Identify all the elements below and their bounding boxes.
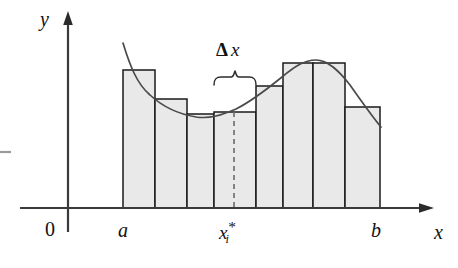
table-row [123, 70, 155, 208]
table-row [345, 107, 380, 208]
table-row [283, 63, 313, 208]
table-row [214, 112, 256, 208]
table-row [187, 114, 214, 208]
y-axis-arrow-icon [63, 11, 73, 25]
table-row [155, 99, 187, 208]
riemann-sum-figure: y x 0 a b Δx xi* [0, 0, 458, 268]
delta-x-variable: x [231, 39, 239, 60]
riemann-bars [123, 63, 380, 208]
y-axis-label: y [40, 9, 49, 29]
sample-point-superscript: * [228, 218, 236, 235]
delta-symbol: Δ [216, 39, 228, 60]
delta-x-brace [214, 71, 256, 85]
table-row [313, 63, 345, 208]
table-row [256, 86, 283, 208]
delta-x-label: Δx [216, 40, 239, 59]
upper-limit-label: b [371, 220, 381, 240]
origin-label: 0 [45, 219, 55, 239]
x-axis-arrow-icon [419, 203, 434, 213]
lower-limit-label: a [118, 220, 128, 240]
x-axis-label: x [434, 222, 443, 242]
sample-point-label: xi* [219, 219, 236, 245]
